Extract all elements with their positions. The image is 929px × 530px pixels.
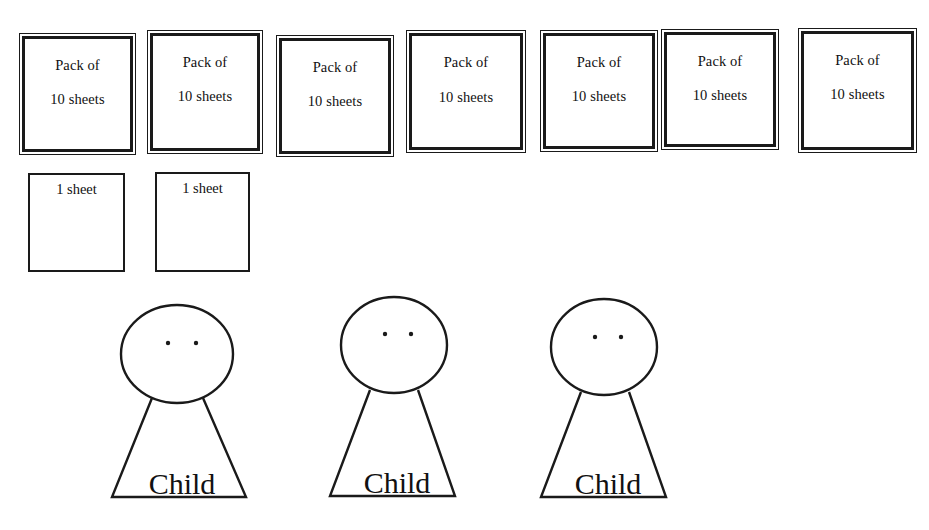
child-eye-dot-2 (409, 332, 413, 336)
child-eye-dot-1 (383, 332, 387, 336)
pack-box-inner: Pack of 10 sheets (543, 33, 655, 149)
child-head-circle (121, 305, 233, 403)
pack-box-2[interactable]: Pack of 10 sheets (147, 30, 263, 154)
pack-label-line2: 10 sheets (693, 88, 747, 103)
pack-label-line1: Pack of (55, 58, 100, 73)
child-head-circle (551, 299, 657, 395)
pack-label-line1: Pack of (698, 54, 743, 69)
single-sheet-box-2[interactable]: 1 sheet (155, 172, 250, 272)
pack-box-7[interactable]: Pack of 10 sheets (798, 28, 917, 153)
child-head-circle (341, 297, 447, 393)
pack-label-line1: Pack of (183, 55, 228, 70)
pack-box-inner: Pack of 10 sheets (279, 38, 391, 154)
child-figure-3[interactable]: Child (535, 293, 672, 503)
child-figure-2[interactable]: Child (324, 291, 461, 502)
pack-label-line2: 10 sheets (830, 87, 884, 102)
pack-label-line1: Pack of (577, 55, 622, 70)
child-figure-1[interactable]: Child (106, 299, 252, 503)
pack-label-line2: 10 sheets (439, 90, 493, 105)
pack-box-3[interactable]: Pack of 10 sheets (276, 35, 394, 157)
pack-box-5[interactable]: Pack of 10 sheets (540, 30, 658, 152)
pack-box-inner: Pack of 10 sheets (22, 36, 133, 152)
pack-box-6[interactable]: Pack of 10 sheets (661, 29, 779, 150)
child-eye-dot-1 (166, 341, 170, 345)
child-eye-dot-2 (194, 341, 198, 345)
pack-box-inner: Pack of 10 sheets (150, 33, 260, 151)
pack-box-4[interactable]: Pack of 10 sheets (406, 30, 526, 153)
pack-label-line2: 10 sheets (178, 89, 232, 104)
single-sheet-box-1[interactable]: 1 sheet (28, 173, 125, 272)
child-eye-dot-1 (593, 335, 597, 339)
child-label: Child (364, 466, 431, 499)
pack-label-line1: Pack of (835, 53, 880, 68)
pack-label-line1: Pack of (444, 55, 489, 70)
pack-box-inner: Pack of 10 sheets (409, 33, 523, 150)
worksheet-illustration: Pack of 10 sheets Pack of 10 sheets Pack… (0, 0, 929, 530)
pack-box-inner: Pack of 10 sheets (801, 31, 914, 150)
pack-label-line2: 10 sheets (50, 92, 104, 107)
pack-label-line2: 10 sheets (572, 89, 626, 104)
single-sheet-label: 1 sheet (56, 181, 97, 198)
child-eye-dot-2 (619, 335, 623, 339)
pack-box-inner: Pack of 10 sheets (664, 32, 776, 147)
pack-box-1[interactable]: Pack of 10 sheets (19, 33, 136, 155)
child-label: Child (575, 467, 642, 500)
pack-label-line1: Pack of (313, 60, 358, 75)
child-label: Child (149, 467, 216, 500)
pack-label-line2: 10 sheets (308, 94, 362, 109)
single-sheet-label: 1 sheet (182, 180, 223, 197)
